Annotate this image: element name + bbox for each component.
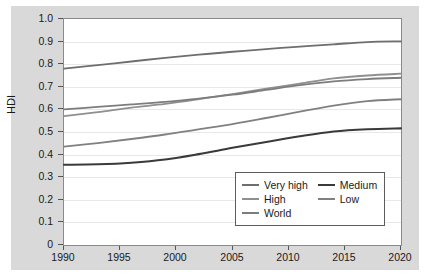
y-tick-label: 0.6 <box>19 103 53 114</box>
legend-label: Low <box>340 194 359 205</box>
x-tick-label: 1990 <box>40 252 86 263</box>
y-axis: HDI 1.00.90.80.70.60.50.40.30.20.10 <box>11 6 63 256</box>
legend-label: High <box>264 194 286 205</box>
legend-entry-medium[interactable]: Medium <box>318 178 377 192</box>
y-tick-label: 0.2 <box>19 194 53 205</box>
x-tick-label: 1995 <box>96 252 142 263</box>
y-tick-label: 1.0 <box>19 13 53 24</box>
y-tick-label: 0.5 <box>19 126 53 137</box>
x-tick-mark <box>288 246 289 250</box>
legend-entry-very-high[interactable]: Very high <box>242 178 308 192</box>
series-line-medium <box>64 128 401 164</box>
legend-swatch-icon <box>242 198 259 200</box>
legend-swatch-icon <box>242 184 259 186</box>
x-tick-mark <box>63 246 64 250</box>
legend-entry-low[interactable]: Low <box>318 192 377 206</box>
y-tick-label: 0.9 <box>19 36 53 47</box>
y-tick-label: 0.1 <box>19 216 53 227</box>
x-tick-label: 2005 <box>209 252 255 263</box>
legend-label: Medium <box>340 180 377 191</box>
chart-legend: Very highMediumHighLowWorld <box>235 172 385 226</box>
chart-figure: HDI 1.00.90.80.70.60.50.40.30.20.10 1990… <box>11 6 419 270</box>
x-tick-mark <box>119 246 120 250</box>
legend-label: Very high <box>264 180 308 191</box>
legend-swatch-icon <box>242 212 259 214</box>
y-tick-label: 0.7 <box>19 81 53 92</box>
y-tick-label: 0.3 <box>19 171 53 182</box>
x-axis: 1990199520002005201020152020 <box>63 246 402 268</box>
legend-entries: Very highMediumHighLowWorld <box>242 178 377 220</box>
x-tick-mark <box>232 246 233 250</box>
x-tick-label: 2000 <box>152 252 198 263</box>
x-tick-mark <box>175 246 176 250</box>
y-tick-label: 0.8 <box>19 58 53 69</box>
x-tick-label: 2010 <box>265 252 311 263</box>
x-tick-label: 2015 <box>321 252 367 263</box>
y-axis-label: HDI <box>5 95 17 114</box>
legend-swatch-icon <box>318 198 335 200</box>
y-tick-label: 0.4 <box>19 149 53 160</box>
x-tick-label: 2020 <box>377 252 423 263</box>
x-tick-mark <box>400 246 401 250</box>
x-tick-mark <box>344 246 345 250</box>
series-line-very-high <box>64 41 401 68</box>
legend-entry-high[interactable]: High <box>242 192 308 206</box>
legend-entry-world[interactable]: World <box>242 206 308 220</box>
legend-label: World <box>264 208 291 219</box>
legend-swatch-icon <box>318 184 335 186</box>
y-tick-label: 0 <box>19 239 53 250</box>
